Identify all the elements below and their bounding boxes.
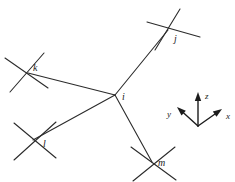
axis-line-y: [184, 113, 198, 126]
bond-i-k: [28, 73, 115, 95]
cross-arm-k-2: [10, 53, 44, 92]
bond-i-j: [115, 30, 168, 95]
axis-label-z: z: [204, 91, 209, 101]
node-label-l: l: [43, 138, 46, 149]
node-label-j: j: [172, 33, 177, 44]
bond-diagram-figure: i j k l m z x y: [0, 0, 235, 182]
coordinate-triad: z x y: [166, 91, 230, 126]
axis-label-y: y: [166, 109, 171, 119]
cross-marker-group: [5, 9, 200, 181]
diagram-canvas: i j k l m z x y: [0, 0, 235, 182]
bond-i-l: [33, 95, 115, 140]
axis-arrowhead-x: [213, 109, 222, 117]
axis-label-x: x: [225, 111, 230, 121]
node-label-i: i: [122, 91, 125, 102]
cross-arm-m-2: [133, 147, 175, 181]
bond-group: [28, 30, 168, 162]
node-label-k: k: [33, 62, 38, 73]
bond-i-m: [115, 95, 152, 162]
node-label-m: m: [158, 157, 165, 168]
axis-arrowhead-z: [195, 92, 201, 101]
axis-line-x: [198, 114, 215, 126]
